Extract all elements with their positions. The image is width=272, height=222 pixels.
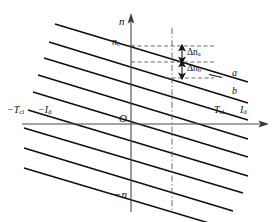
leader-line-to-a — [209, 75, 222, 78]
parallel-line-8 — [24, 148, 233, 211]
x-axis-neg-T-main: −T — [7, 104, 19, 115]
delta-n-a-label: Δna — [187, 48, 201, 58]
curve-a-label: a — [232, 68, 237, 78]
y-axis-label: n — [119, 16, 125, 27]
delta-n-a-main: Δn — [187, 47, 198, 57]
nc-label: nc — [112, 37, 120, 48]
x-axis-neg-I-main: −I — [38, 104, 48, 115]
curve-b-label: b — [232, 86, 237, 96]
x-axis-neg-T-label: −Tcl — [7, 105, 24, 116]
y-axis-arrowhead — [128, 13, 135, 24]
parallel-line-family — [24, 24, 248, 222]
parallel-line-7 — [24, 128, 243, 193]
parallel-line-6 — [28, 110, 248, 176]
delta-n-b-sub: b — [198, 66, 201, 73]
figure-canvas: n −n O nc −Tcl −Id Tcl Id Δna Δnb a b — [0, 0, 272, 222]
delta-n-b-main: Δn — [187, 63, 198, 73]
x-axis-pos-I-sub: d — [243, 108, 246, 115]
y-axis-negative-label: −n — [114, 189, 127, 200]
x-axis-pos-T-label: Tcl — [214, 105, 224, 116]
origin-label: O — [119, 113, 127, 124]
x-axis-neg-T-sub: cl — [19, 108, 24, 115]
x-axis-neg-I-sub: d — [48, 108, 51, 115]
nc-label-sub: c — [117, 40, 120, 47]
delta-n-b-label: Δnb — [187, 64, 201, 74]
x-axis-pos-T-sub: cl — [220, 108, 225, 115]
x-axis-neg-I-label: −Id — [38, 105, 51, 116]
x-axis-pos-I-label: Id — [240, 105, 247, 116]
delta-n-a-sub: a — [198, 50, 201, 57]
